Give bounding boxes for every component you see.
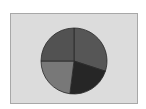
- pie-slice-3: [41, 61, 74, 94]
- pie-slices: [41, 28, 107, 94]
- pie-chart: [0, 0, 146, 109]
- pie-slice-4: [41, 28, 74, 61]
